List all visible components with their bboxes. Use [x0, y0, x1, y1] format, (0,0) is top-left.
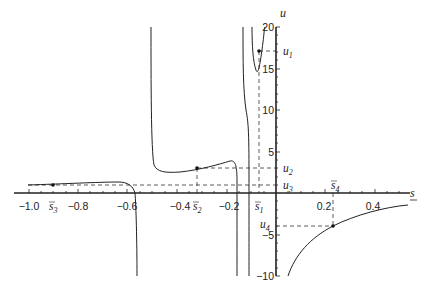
svg-text:−0.8: −0.8 [68, 200, 89, 212]
point-s2-u2 [195, 166, 199, 170]
curve-branch-1 [28, 182, 137, 276]
u-axis-label: u [280, 6, 286, 20]
svg-text:−0.4: −0.4 [170, 200, 191, 212]
point-s3-u3 [51, 183, 55, 187]
svg-text:0.4: 0.4 [366, 200, 381, 212]
u3-label: u3 [283, 179, 293, 194]
svg-text:−0.6: −0.6 [117, 200, 138, 212]
svg-text:−10: −10 [256, 270, 274, 282]
curve-branch-5 [288, 205, 408, 276]
svg-text:10: 10 [262, 104, 274, 116]
svg-text:−1.0: −1.0 [19, 200, 40, 212]
u2-label: u2 [283, 162, 293, 177]
s-axis-label: s [410, 186, 415, 200]
chart: −1.0 −0.8 −0.6 −0.4 −0.2 0.2 0.4 20 15 1… [0, 0, 426, 290]
u1-label: u1 [283, 45, 293, 60]
svg-text:15: 15 [262, 63, 274, 75]
s-axis [14, 189, 410, 193]
svg-text:−0.2: −0.2 [219, 200, 240, 212]
svg-text:5: 5 [268, 146, 274, 158]
curve-branch-3 [243, 27, 249, 276]
svg-text:0.2: 0.2 [317, 200, 332, 212]
point-s4-u4 [331, 224, 335, 228]
u-axis [276, 27, 280, 276]
s-markers: s3 s2 s1 s4 [49, 179, 339, 215]
curves [28, 27, 408, 276]
svg-text:20: 20 [262, 21, 274, 33]
curve-branch-2 [151, 27, 237, 276]
point-s1-u1 [257, 49, 261, 53]
